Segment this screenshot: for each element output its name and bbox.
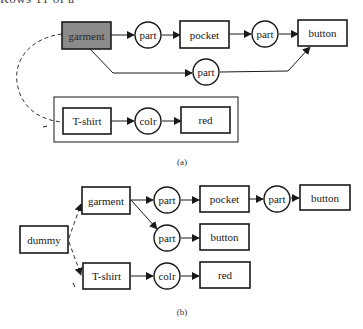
edge-dummy-tshirt: [69, 242, 81, 275]
node-tshirt-b[interactable]: T-shirt: [83, 263, 130, 289]
node-part-2-b[interactable]: part: [264, 186, 290, 212]
tick-mark-b: [73, 283, 75, 287]
node-colr-b-label: colr: [158, 270, 175, 282]
node-part-3-b-label: part: [158, 232, 175, 244]
node-dummy-b[interactable]: dummy: [20, 226, 68, 253]
node-part-1-b[interactable]: part: [154, 187, 180, 213]
node-colr-label: colr: [139, 115, 156, 127]
node-button-1-b[interactable]: button: [300, 185, 350, 210]
tick-mark: [43, 126, 47, 127]
edge-garment-lower-part: [90, 49, 192, 73]
node-garment-b-label: garment: [88, 195, 124, 207]
node-part-1-label: part: [139, 29, 156, 41]
node-tshirt[interactable]: T-shirt: [63, 108, 111, 134]
node-pocket-b-label: pocket: [210, 193, 239, 205]
node-button-2-b-label: button: [210, 231, 239, 243]
node-button-1-b-label: button: [311, 192, 340, 204]
coreference-dashed-curve: [17, 34, 62, 122]
node-part-3[interactable]: part: [193, 59, 219, 85]
node-part-1-b-label: part: [158, 194, 175, 206]
node-part-2[interactable]: part: [252, 21, 278, 47]
node-pocket[interactable]: pocket: [180, 21, 229, 48]
edge-garment-part2-b: [131, 200, 157, 229]
node-part-3-label: part: [197, 66, 214, 78]
diagram-canvas: garment part pocket part button part T-s…: [0, 0, 363, 329]
node-red-label: red: [198, 114, 213, 126]
caption-b: (b): [177, 307, 188, 317]
edge-dummy-garment: [69, 204, 81, 238]
node-part-2-label: part: [256, 28, 273, 40]
node-pocket-b[interactable]: pocket: [200, 186, 249, 212]
node-part-2-b-label: part: [268, 193, 285, 205]
node-colr[interactable]: colr: [135, 108, 161, 134]
node-part-1[interactable]: part: [135, 22, 161, 48]
node-red-b[interactable]: red: [200, 262, 250, 288]
node-red[interactable]: red: [181, 107, 230, 133]
node-garment-label: garment: [68, 30, 104, 42]
node-button-2-b[interactable]: button: [200, 224, 249, 250]
node-tshirt-label: T-shirt: [73, 115, 102, 127]
node-part-3-b[interactable]: part: [154, 225, 180, 251]
node-button-label: button: [308, 27, 337, 39]
node-red-b-label: red: [218, 269, 233, 281]
caption-a: (a): [177, 157, 187, 167]
node-garment-b[interactable]: garment: [82, 187, 130, 214]
node-button[interactable]: button: [298, 20, 347, 46]
diagram-a: garment part pocket part button part T-s…: [17, 20, 347, 167]
edge-lower-part-button: [220, 47, 310, 72]
node-tshirt-b-label: T-shirt: [92, 270, 121, 282]
diagram-b: dummy garment part pocket part button pa…: [20, 185, 350, 317]
node-pocket-label: pocket: [190, 29, 219, 41]
node-garment[interactable]: garment: [62, 22, 111, 49]
node-dummy-b-label: dummy: [27, 234, 61, 246]
node-colr-b[interactable]: colr: [154, 263, 180, 289]
